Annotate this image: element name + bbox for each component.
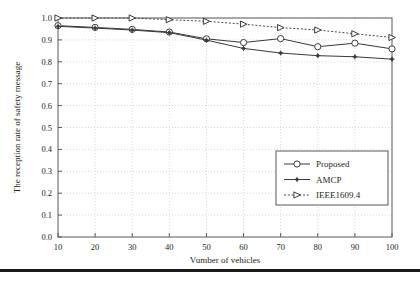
series-point-amcp: [241, 46, 246, 51]
x-tick-label: 40: [165, 242, 174, 252]
line-chart: 0.00.10.20.30.40.50.60.70.80.91.01020304…: [0, 0, 420, 282]
footer-rule: [0, 269, 420, 272]
figure-container: 0.00.10.20.30.40.50.60.70.80.91.01020304…: [0, 0, 420, 282]
y-tick-label: 0.6: [41, 101, 52, 111]
series-point-proposed: [278, 35, 284, 41]
series-point-proposed: [240, 39, 246, 45]
x-axis-title: Vumber of vehicles: [190, 255, 261, 265]
series-point-ieee1609-4: [92, 15, 99, 21]
legend-label: Proposed: [316, 159, 350, 169]
y-tick-label: 0.0: [41, 232, 52, 242]
x-tick-label: 70: [276, 242, 285, 252]
legend-swatch-marker: [294, 161, 300, 167]
legend-label: IEEE1609.4: [316, 190, 361, 200]
series-point-proposed: [315, 44, 321, 50]
y-tick-label: 0.7: [41, 79, 52, 89]
y-tick-label: 0.4: [41, 144, 52, 154]
series-point-amcp: [352, 54, 357, 59]
x-tick-label: 60: [239, 242, 248, 252]
x-tick-label: 90: [351, 242, 360, 252]
y-tick-label: 0.1: [41, 210, 52, 220]
series-point-proposed: [389, 46, 395, 52]
series-point-ieee1609-4: [352, 31, 359, 37]
x-tick-label: 50: [202, 242, 211, 252]
y-tick-label: 0.5: [41, 123, 52, 133]
x-tick-label: 80: [314, 242, 323, 252]
series-point-amcp: [278, 50, 283, 55]
series-point-amcp: [315, 53, 320, 58]
x-tick-label: 10: [54, 242, 63, 252]
y-tick-label: 0.2: [41, 188, 52, 198]
series-point-amcp: [389, 57, 394, 62]
x-tick-label: 100: [386, 242, 399, 252]
series-point-ieee1609-4: [203, 18, 210, 24]
series-line-amcp: [58, 26, 392, 59]
series-point-ieee1609-4: [278, 25, 285, 31]
legend-label: AMCP: [316, 175, 342, 185]
y-tick-label: 0.3: [41, 166, 52, 176]
x-tick-label: 30: [128, 242, 137, 252]
y-tick-label: 1.0: [41, 13, 52, 23]
y-tick-label: 0.9: [41, 35, 52, 45]
chart-legend: ProposedAMCPIEEE1609.4: [276, 151, 388, 205]
y-axis-title: The reception rate of safety message: [12, 62, 22, 194]
data-series: [55, 15, 396, 62]
series-point-proposed: [352, 40, 358, 46]
series-point-ieee1609-4: [129, 15, 136, 21]
y-tick-label: 0.8: [41, 57, 52, 67]
x-tick-label: 20: [91, 242, 100, 252]
